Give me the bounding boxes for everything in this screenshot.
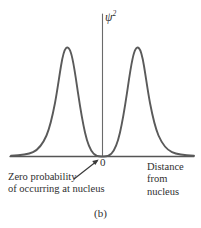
probability-density-figure: ψ2 0 Zero probability of occurring at nu…	[0, 0, 201, 228]
figure-caption: (b)	[0, 207, 201, 220]
zero-probability-annotation: Zero probability of occurring at nucleus	[8, 171, 105, 196]
origin-tick-label: 0	[100, 156, 106, 169]
distance-from-nucleus-annotation: Distance from nucleus	[147, 161, 184, 198]
y-axis-label: ψ2	[105, 10, 116, 24]
psi-exponent: 2	[112, 9, 116, 18]
